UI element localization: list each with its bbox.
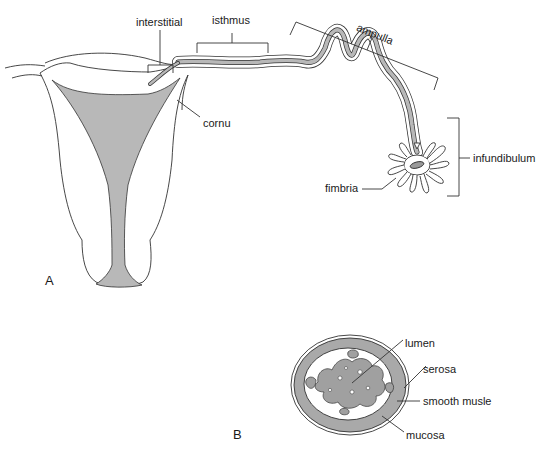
label-isthmus: isthmus (212, 15, 250, 26)
infundibulum-bracket (447, 118, 470, 196)
diagram-canvas (0, 0, 549, 461)
label-smooth-muscle: smooth musle (423, 396, 491, 407)
fimbria-leader (362, 178, 396, 189)
panel-label-a: A (45, 274, 54, 287)
label-lumen: lumen (405, 338, 435, 349)
label-infundibulum: infundibulum (473, 153, 535, 164)
label-cornu: cornu (203, 118, 231, 129)
panel-label-b: B (233, 428, 242, 441)
cornu-leader (177, 100, 200, 117)
label-serosa: serosa (423, 364, 456, 375)
isthmus-bracket (197, 33, 268, 53)
label-fimbria: fimbria (325, 183, 358, 194)
uterine-cavity (52, 78, 180, 287)
label-mucosa: mucosa (406, 430, 445, 441)
label-interstitial: interstitial (136, 17, 182, 28)
